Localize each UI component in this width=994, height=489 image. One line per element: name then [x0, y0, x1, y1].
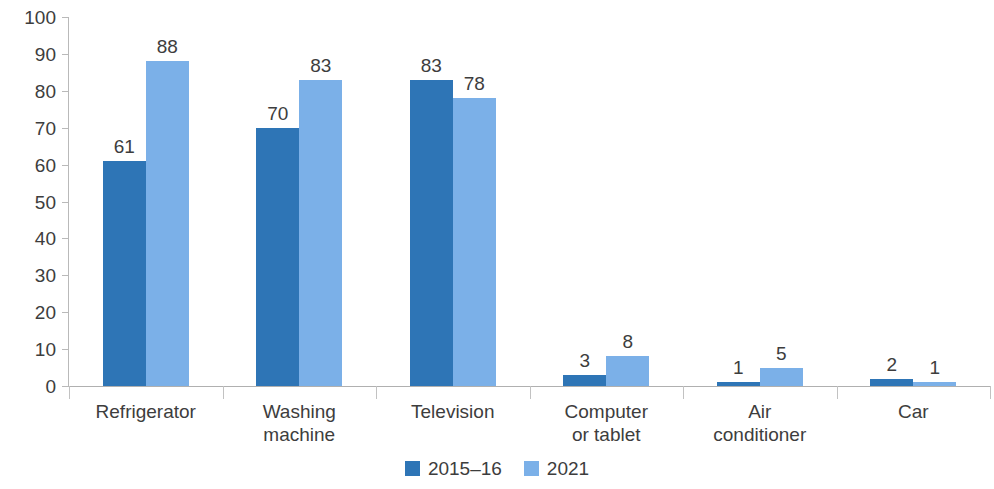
bar[interactable]: 1 — [717, 382, 760, 386]
chart-legend: 2015–162021 — [0, 459, 994, 478]
x-axis-category-label: Airconditioner — [683, 400, 837, 446]
bar-value-label: 1 — [733, 358, 744, 377]
bar-group-bars: 15 — [717, 17, 803, 386]
bar[interactable]: 83 — [299, 80, 342, 386]
bar-group: 15 — [683, 17, 837, 386]
bar-fill — [299, 80, 342, 386]
bar-group-bars: 38 — [563, 17, 649, 386]
x-axis-category-label: Computeror tablet — [530, 400, 684, 446]
bar-value-label: 78 — [464, 74, 485, 93]
x-axis-category-line: Computer — [565, 401, 648, 422]
bar[interactable]: 3 — [563, 375, 606, 386]
bar-fill — [870, 379, 913, 386]
bar-value-label: 88 — [157, 37, 178, 56]
x-axis-category-line: Washing — [263, 401, 336, 422]
y-axis-tick-label: 70 — [35, 118, 69, 137]
x-axis-category-line: Television — [411, 401, 494, 422]
y-axis-tick-label: 40 — [35, 229, 69, 248]
x-axis-group-tick — [223, 386, 224, 399]
bar-value-label: 83 — [310, 56, 331, 75]
x-axis-category-line: or tablet — [572, 424, 641, 445]
bar[interactable]: 88 — [146, 61, 189, 386]
legend-label: 2015–16 — [428, 459, 502, 478]
legend-swatch — [524, 461, 539, 476]
legend-item[interactable]: 2021 — [524, 459, 589, 478]
bar-fill — [453, 98, 496, 386]
bar[interactable]: 78 — [453, 98, 496, 386]
bar-fill — [563, 375, 606, 386]
y-axis-tick-label: 0 — [45, 377, 69, 396]
y-axis-tick-label: 10 — [35, 340, 69, 359]
y-axis-tick-label: 90 — [35, 44, 69, 63]
bar-group-bars: 7083 — [256, 17, 342, 386]
x-axis-group-tick — [990, 386, 991, 399]
bar-value-label: 70 — [267, 104, 288, 123]
bar-fill — [913, 382, 956, 386]
x-axis-category-line: conditioner — [713, 424, 806, 445]
bar-group-bars: 8378 — [410, 17, 496, 386]
x-axis-category-line: Air — [748, 401, 771, 422]
bar[interactable]: 5 — [760, 368, 803, 386]
bar-chart: 1009080706050403020100 61887083837838152… — [0, 0, 994, 489]
x-axis-category-line: Car — [898, 401, 929, 422]
y-axis-tick-label: 80 — [35, 81, 69, 100]
bar-group-bars: 6188 — [103, 17, 189, 386]
x-axis-category-label: Car — [837, 400, 991, 446]
bar-group: 8378 — [376, 17, 530, 386]
bar-group: 21 — [837, 17, 991, 386]
x-axis-group-tick — [530, 386, 531, 399]
y-axis-tick-label: 20 — [35, 303, 69, 322]
bar[interactable]: 70 — [256, 128, 299, 386]
x-axis-category-line: machine — [263, 424, 335, 445]
x-axis-group-tick — [69, 386, 70, 399]
x-axis-group-tick — [837, 386, 838, 399]
legend-label: 2021 — [547, 459, 589, 478]
bar-value-label: 8 — [622, 332, 633, 351]
bar-value-label: 5 — [776, 344, 787, 363]
bar[interactable]: 1 — [913, 382, 956, 386]
x-axis-category-label: Refrigerator — [69, 400, 223, 446]
legend-item[interactable]: 2015–16 — [405, 459, 502, 478]
bar-fill — [760, 368, 803, 386]
bar-group: 7083 — [223, 17, 377, 386]
x-axis-group-tick — [376, 386, 377, 399]
bar-fill — [146, 61, 189, 386]
x-axis-category-line: Refrigerator — [96, 401, 196, 422]
y-axis-tick-label: 100 — [24, 8, 69, 27]
x-axis-category-label: Television — [376, 400, 530, 446]
bar-value-label: 61 — [114, 137, 135, 156]
bar-fill — [717, 382, 760, 386]
bar-fill — [606, 356, 649, 386]
y-axis-tick-label: 60 — [35, 155, 69, 174]
bar-fill — [410, 80, 453, 386]
bar-group-bars: 21 — [870, 17, 956, 386]
bar[interactable]: 8 — [606, 356, 649, 386]
bar[interactable]: 2 — [870, 379, 913, 386]
x-axis-baseline — [62, 386, 990, 387]
bar[interactable]: 83 — [410, 80, 453, 386]
bar-value-label: 1 — [929, 358, 940, 377]
bar-fill — [256, 128, 299, 386]
y-axis-tick-label: 50 — [35, 192, 69, 211]
x-axis-category-label: Washingmachine — [223, 400, 377, 446]
y-axis-tick-label: 30 — [35, 266, 69, 285]
x-axis-labels: RefrigeratorWashingmachineTelevisionComp… — [69, 400, 990, 446]
legend-swatch — [405, 461, 420, 476]
x-axis-group-tick — [683, 386, 684, 399]
plot-bars: 618870838378381521 — [69, 17, 990, 386]
bar-group: 6188 — [69, 17, 223, 386]
bar[interactable]: 61 — [103, 161, 146, 386]
bar-value-label: 2 — [886, 355, 897, 374]
bar-value-label: 83 — [421, 56, 442, 75]
bar-fill — [103, 161, 146, 386]
bar-value-label: 3 — [579, 351, 590, 370]
bar-group: 38 — [530, 17, 684, 386]
